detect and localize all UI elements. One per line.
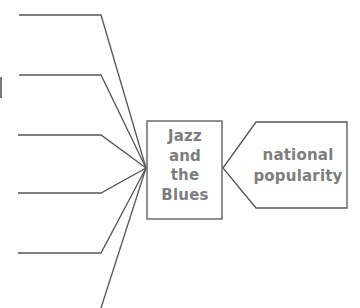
- branch-line-4: [18, 168, 146, 193]
- center-label-line-3: the: [148, 166, 222, 186]
- branch-line-3: [18, 135, 146, 168]
- side-label-line-1: national: [250, 145, 346, 166]
- branch-line-5: [18, 168, 146, 253]
- edge-mark: [0, 77, 2, 98]
- center-label-line-2: and: [148, 147, 222, 167]
- center-label-line-4: Blues: [148, 186, 222, 206]
- center-node-label: Jazz and the Blues: [148, 127, 222, 205]
- side-node-label: national popularity: [250, 145, 346, 187]
- center-label-line-1: Jazz: [148, 127, 222, 147]
- branch-line-1: [19, 15, 146, 168]
- side-label-line-2: popularity: [250, 166, 346, 187]
